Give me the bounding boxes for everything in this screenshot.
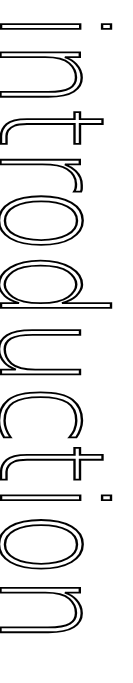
section-title-text: introduction [0, 12, 124, 642]
vertical-heading-container: introduction [0, 0, 133, 683]
section-title: introduction [0, 12, 14, 642]
